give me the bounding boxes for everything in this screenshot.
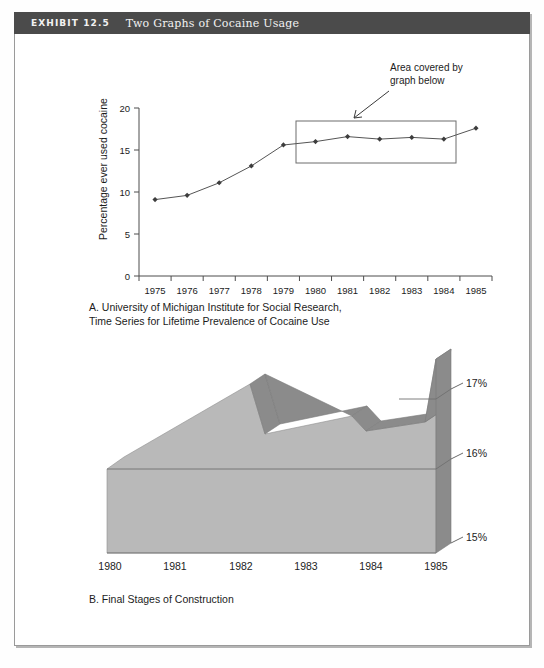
panel-a-xtick-1979: 1979 (273, 285, 294, 296)
panel-a-annotation-line2: graph below (390, 75, 445, 86)
panel-a-xtick-1984: 1984 (433, 285, 454, 296)
panel-b-xtick-1981: 1981 (163, 560, 187, 572)
panel-a-data-point (313, 139, 318, 144)
panel-a-xtick-1975: 1975 (144, 285, 165, 296)
panel-a-y-axis-label: Percentage ever used cocaine (97, 98, 109, 240)
panel-b-ytick-17: 17% (466, 377, 487, 389)
panel-b-xtick-1984: 1984 (359, 560, 383, 572)
panel-b-ytick-15: 15% (466, 531, 487, 543)
panel-b-right-wall (436, 349, 451, 553)
panel-a-data-point (441, 136, 446, 141)
panel-a-x-ticks (139, 276, 492, 281)
panel-b-leader-15 (451, 537, 463, 543)
panel-a-data-point (152, 197, 157, 202)
exhibit-number-label: EXHIBIT 12.5 (31, 18, 110, 28)
panel-b-xtick-1983: 1983 (294, 560, 318, 572)
panel-a-data-point (409, 135, 414, 140)
panel-a-svg: Percentage ever used cocaine 20 15 10 5 … (14, 34, 530, 334)
panel-b-leader-16 (451, 453, 463, 459)
panel-a-data-point (249, 163, 254, 168)
panel-a-xtick-1985: 1985 (465, 285, 486, 296)
panel-a-ytick-5: 5 (125, 229, 130, 240)
panel-a-xtick-1982: 1982 (369, 285, 390, 296)
exhibit-title: Two Graphs of Cocaine Usage (126, 17, 299, 30)
panel-a-caption: A. University of Michigan Institute for … (89, 300, 342, 328)
panel-a-xtick-1976: 1976 (177, 285, 198, 296)
panel-a-annotation-arrow (354, 91, 389, 118)
panel-a-xtick-1977: 1977 (209, 285, 230, 296)
panel-a-xtick-1978: 1978 (241, 285, 262, 296)
panel-a-y-ticks: 20 15 10 5 0 (119, 103, 139, 282)
exhibit-page: EXHIBIT 12.5 Two Graphs of Cocaine Usage… (0, 0, 544, 668)
panel-a-x-tick-labels: 1975197619771978197919801981198219831984… (144, 285, 486, 296)
panel-a-xtick-1983: 1983 (401, 285, 422, 296)
panel-a-highlight-box (296, 121, 456, 163)
panel-b-svg: 17% 16% 15% 198019811982198319841985 (14, 336, 530, 586)
panel-b-caption: B. Final Stages of Construction (89, 592, 234, 606)
panel-a-data-point (345, 134, 350, 139)
panel-a-ytick-15: 15 (119, 145, 130, 156)
panel-a-series-line (155, 128, 476, 199)
panel-a-ytick-10: 10 (119, 187, 130, 198)
panel-b-leader-17 (451, 383, 463, 389)
panel-b-xtick-1980: 1980 (98, 560, 122, 572)
panel-b-ytick-16: 16% (466, 447, 487, 459)
panel-b-x-tick-labels: 198019811982198319841985 (98, 560, 448, 572)
exhibit-header-bar: EXHIBIT 12.5 Two Graphs of Cocaine Usage (14, 12, 530, 34)
panel-b-xtick-1985: 1985 (424, 560, 448, 572)
panel-a-data-point (473, 126, 478, 131)
panel-b-area-chart: 17% 16% 15% 198019811982198319841985 (14, 336, 530, 586)
panel-a-data-point (185, 193, 190, 198)
panel-a-ytick-0: 0 (125, 271, 130, 282)
panel-a-data-point (377, 136, 382, 141)
panel-b-xtick-1982: 1982 (229, 560, 253, 572)
panel-a-xtick-1981: 1981 (337, 285, 358, 296)
panel-a-line-chart: Percentage ever used cocaine 20 15 10 5 … (14, 34, 530, 334)
panel-a-annotation-line1: Area covered by (390, 62, 463, 73)
panel-a-ytick-20: 20 (119, 103, 130, 114)
panel-a-data-point (217, 180, 222, 185)
panel-a-xtick-1980: 1980 (305, 285, 326, 296)
panel-a-data-markers (152, 126, 478, 203)
